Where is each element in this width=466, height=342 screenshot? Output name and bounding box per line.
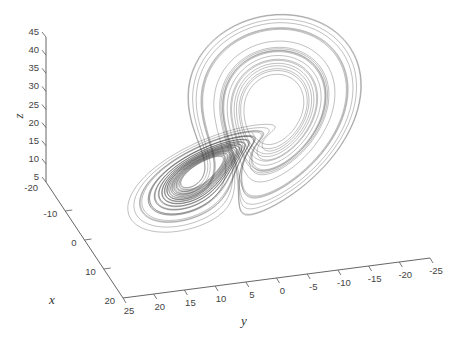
z-tick-label: 5 <box>34 171 39 182</box>
z-tick-mark <box>42 177 46 182</box>
y-tick-mark <box>123 298 126 303</box>
y-tick-label: -15 <box>368 273 382 284</box>
z-tick-mark <box>42 105 46 110</box>
z-tick-label: 20 <box>28 117 39 128</box>
z-tick-mark <box>42 68 46 73</box>
y-tick-label: 10 <box>216 293 227 304</box>
y-tick-label: -10 <box>337 277 351 288</box>
x-ticks: -20-1001020 <box>24 182 115 306</box>
y-tick-label: 5 <box>249 289 254 300</box>
y-tick-label: 20 <box>154 301 165 312</box>
y-tick-mark <box>154 294 157 299</box>
z-tick-mark <box>42 86 46 91</box>
z-tick-label: 15 <box>28 135 39 146</box>
z-tick-mark <box>42 141 46 146</box>
y-tick-mark <box>399 262 402 267</box>
y-tick-label: 0 <box>280 285 285 296</box>
z-tick-mark <box>42 32 46 37</box>
lorenz-trajectory <box>128 14 362 232</box>
y-tick-mark <box>430 258 433 263</box>
y-tick-label: 25 <box>124 305 135 316</box>
z-tick-mark <box>42 123 46 128</box>
z-ticks: 51015202530354045 <box>28 26 46 182</box>
x-tick-label: -20 <box>24 182 38 193</box>
y-tick-mark <box>369 266 372 271</box>
lorenz-3d-plot: 51015202530354045 -20-1001020 2520151050… <box>0 0 466 342</box>
y-ticks: 2520151050-5-10-15-20-25 <box>123 258 443 316</box>
y-tick-mark <box>338 270 341 275</box>
y-tick-label: -20 <box>398 269 412 280</box>
z-tick-label: 45 <box>28 26 39 37</box>
x-tick-label: 0 <box>71 237 76 248</box>
y-tick-label: 15 <box>185 297 196 308</box>
y-tick-mark <box>184 290 187 295</box>
x-tick-mark <box>104 268 111 269</box>
z-tick-mark <box>42 50 46 55</box>
x-tick-label: 10 <box>85 266 96 277</box>
y-tick-label: -25 <box>429 265 443 276</box>
axes: 51015202530354045 -20-1001020 2520151050… <box>11 26 443 328</box>
y-tick-label: -5 <box>309 281 317 292</box>
x-tick-label: -10 <box>44 208 58 219</box>
z-tick-label: 10 <box>28 153 39 164</box>
y-tick-mark <box>215 286 218 291</box>
z-tick-label: 25 <box>28 99 39 110</box>
y-tick-mark <box>307 274 310 279</box>
trajectory-layer <box>128 14 362 232</box>
y-tick-mark <box>246 282 249 287</box>
z-tick-label: 40 <box>28 44 39 55</box>
x-tick-mark <box>65 210 72 211</box>
z-tick-mark <box>42 159 46 164</box>
y-axis-label: y <box>239 313 247 328</box>
z-tick-label: 30 <box>28 80 39 91</box>
z-axis-label: z <box>11 113 26 119</box>
x-axis-label: x <box>48 292 55 307</box>
x-tick-label: 20 <box>104 295 115 306</box>
y-tick-mark <box>277 278 280 283</box>
z-tick-label: 35 <box>28 62 39 73</box>
x-tick-mark <box>85 239 92 240</box>
